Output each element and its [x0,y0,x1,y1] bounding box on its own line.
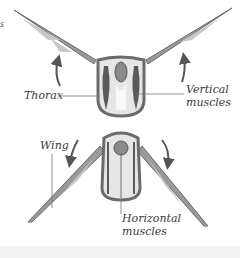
flight-muscle-diagram: s Thorax Vertical muscles Wing Horizonta… [0,0,240,258]
horizontal-muscles-label-line2: muscles [122,226,167,238]
thorax-label: Thorax [24,90,63,102]
left-wing-down [28,146,104,222]
bottom-strip [0,246,240,258]
vertical-muscles-label-line2: muscles [186,97,231,109]
right-wing-up [146,8,232,64]
diagram-illustration [0,0,240,258]
wing-label: Wing [40,140,69,152]
arrow-down-left-icon [70,140,78,162]
vertical-muscles-label-line1: Vertical [186,84,229,96]
gut-upper [115,62,127,82]
gut-lower [114,141,128,155]
thorax-upper [98,57,144,116]
arrow-down-right-icon [162,140,168,164]
thorax-lower [102,133,140,200]
arrow-up-left-icon [56,60,60,86]
left-wing-up [14,10,96,64]
cropped-text-fragment: s [0,18,4,29]
arrow-up-right-icon [182,58,185,82]
horizontal-muscles-label-line1: Horizontal [122,213,181,225]
